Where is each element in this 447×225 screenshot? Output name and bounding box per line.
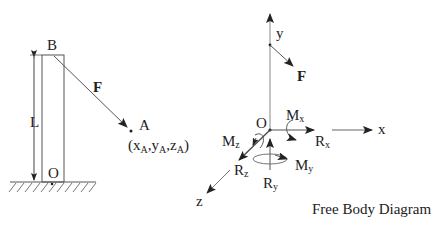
point-a-dot — [130, 130, 133, 133]
column-body — [42, 55, 64, 182]
reaction-ry-label: Ry — [263, 175, 278, 192]
right-figure: y F O Rx x Mx Ry My Rz Mz z Fre — [196, 14, 431, 217]
reaction-rz-arrow — [239, 130, 270, 160]
origin-label: O — [256, 115, 267, 131]
moment-my-label: My — [295, 157, 313, 174]
moment-mx-label: Mx — [286, 107, 304, 124]
force-f-arrow-fbd — [270, 45, 293, 66]
length-label: L — [30, 114, 39, 130]
z-axis — [207, 170, 230, 193]
moment-mz-label: Mz — [222, 133, 240, 150]
point-b-label: B — [47, 37, 57, 53]
left-figure: L B O F A (xA,yA,zA) — [9, 37, 189, 192]
force-f-label: F — [93, 79, 102, 95]
force-f-label-fbd: F — [297, 68, 306, 84]
reaction-rz-label: Rz — [234, 162, 249, 179]
point-o-label: O — [48, 165, 59, 181]
point-a-coordinates: (xA,yA,zA) — [128, 137, 189, 155]
diagram-caption: Free Body Diagram — [312, 201, 431, 217]
z-axis-label: z — [196, 193, 203, 209]
free-body-diagram-figure: L B O F A (xA,yA,zA) y F O Rx x Mx — [0, 0, 447, 225]
force-f-arrow — [54, 56, 127, 127]
reaction-rx-label: Rx — [315, 133, 330, 150]
x-axis-label: x — [378, 121, 386, 137]
point-o-dot — [51, 183, 54, 186]
y-axis-label: y — [276, 25, 284, 41]
point-a-label: A — [139, 117, 150, 133]
